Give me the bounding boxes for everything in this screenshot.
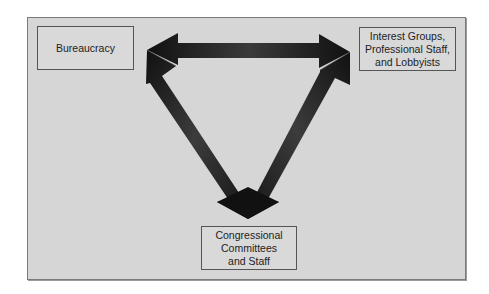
arrow-bureaucracy-congress — [146, 50, 248, 219]
arrow-bureaucracy-interest — [147, 33, 350, 68]
node-interest-groups: Interest Groups, Professional Staff, and… — [359, 27, 456, 71]
node-congressional-committees-label: Congressional Committees and Staff — [215, 229, 282, 268]
node-bureaucracy-label: Bureaucracy — [56, 42, 115, 55]
node-congressional-committees: Congressional Committees and Staff — [201, 226, 297, 270]
node-interest-groups-label: Interest Groups, Professional Staff, and… — [365, 30, 450, 69]
arrow-interest-congress — [248, 52, 350, 219]
node-bureaucracy: Bureaucracy — [37, 26, 134, 70]
